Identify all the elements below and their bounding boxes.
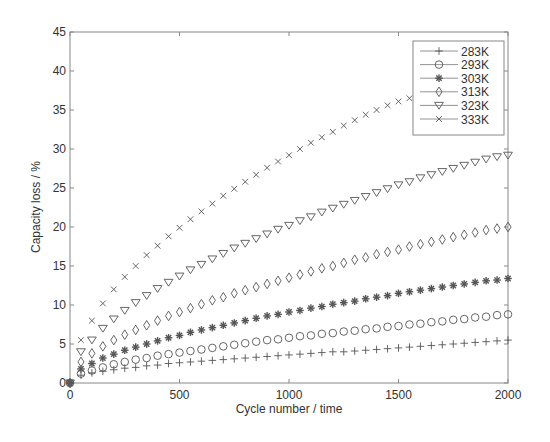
data-point — [504, 275, 512, 283]
data-point — [285, 308, 293, 316]
x-tick-label: 1500 — [385, 388, 412, 402]
data-point — [165, 334, 173, 342]
data-point — [241, 317, 249, 325]
data-point — [274, 311, 282, 319]
data-point — [187, 329, 195, 337]
data-point — [307, 304, 315, 312]
x-tick-label: 500 — [169, 388, 189, 402]
y-tick-label: 15 — [53, 259, 67, 273]
data-point — [482, 277, 490, 285]
data-point — [460, 280, 468, 288]
y-tick-label: 0 — [59, 376, 66, 390]
x-tick-label: 1000 — [276, 388, 303, 402]
data-point — [230, 319, 238, 327]
legend-box — [413, 41, 504, 135]
data-point — [351, 297, 359, 305]
data-point — [99, 354, 107, 362]
data-point — [132, 343, 140, 351]
y-tick-label: 45 — [53, 25, 67, 39]
legend-label: 323K — [461, 99, 489, 113]
legend-marker-icon — [435, 74, 443, 82]
data-point — [340, 299, 348, 307]
legend-label: 283K — [461, 45, 489, 59]
y-tick-label: 30 — [53, 142, 67, 156]
data-point — [296, 307, 304, 315]
legend-label: 303K — [461, 72, 489, 86]
y-tick-label: 5 — [59, 337, 66, 351]
data-point — [428, 285, 436, 293]
x-tick-label: 2000 — [495, 388, 522, 402]
capacity-loss-chart: 051015202530354045 0500100015002000 Cycl… — [0, 0, 550, 442]
y-tick-label: 25 — [53, 181, 67, 195]
data-point — [154, 337, 162, 345]
y-tick-label: 20 — [53, 220, 67, 234]
data-point — [439, 283, 447, 291]
data-point — [362, 295, 370, 303]
y-tick-label: 35 — [53, 103, 67, 117]
data-point — [88, 360, 96, 368]
y-axis-label: Capacity loss / % — [29, 161, 43, 253]
data-point — [406, 288, 414, 296]
data-point — [209, 324, 217, 332]
data-point — [220, 321, 228, 329]
y-tick-label: 40 — [53, 64, 67, 78]
data-point — [110, 350, 118, 358]
data-point — [329, 300, 337, 308]
legend-label: 313K — [461, 85, 489, 99]
legend-label: 293K — [461, 58, 489, 72]
legend-label: 333K — [461, 113, 489, 127]
x-tick-label: 0 — [67, 388, 74, 402]
data-point — [263, 312, 271, 320]
data-point — [417, 286, 425, 294]
data-point — [449, 282, 457, 290]
data-point — [493, 276, 501, 284]
y-tick-label: 10 — [53, 298, 67, 312]
data-point — [395, 290, 403, 298]
data-point — [252, 314, 260, 322]
data-point — [198, 326, 206, 334]
legend: 283K293K303K313K323K333K — [413, 41, 504, 135]
data-point — [143, 340, 151, 348]
x-axis-label: Cycle number / time — [236, 402, 343, 416]
data-point — [384, 292, 392, 300]
data-point — [176, 332, 184, 340]
data-point — [318, 303, 326, 311]
data-point — [471, 279, 479, 287]
data-point — [121, 346, 129, 354]
data-point — [373, 293, 381, 301]
